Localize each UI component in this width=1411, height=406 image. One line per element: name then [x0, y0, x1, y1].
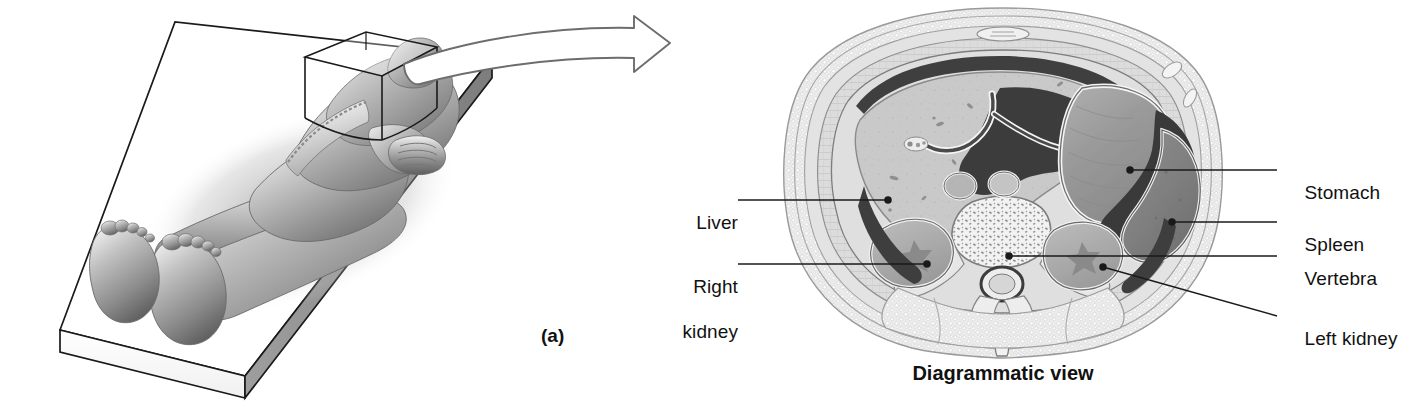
label-left-kidney: Left kidney [1283, 306, 1398, 373]
figure-root: Liver Right kidney Stomach Spleen Verteb… [0, 0, 1411, 406]
leader-dot-spleen [1169, 219, 1175, 225]
label-right-kidney: Right kidney [583, 254, 738, 366]
label-right-kidney-line2: kidney [682, 321, 738, 342]
label-vertebra-text: Vertebra [1305, 268, 1378, 289]
panel-letter-a: (a) [541, 325, 564, 347]
label-liver: Liver [583, 190, 738, 257]
label-left-kidney-text: Left kidney [1305, 328, 1398, 349]
leader-dot-left-kidney [1100, 264, 1106, 270]
figure-caption: Diagrammatic view [843, 362, 1163, 385]
leader-dot-liver [885, 197, 891, 203]
label-stomach-text: Stomach [1305, 182, 1381, 203]
label-right-kidney-line1: Right [693, 276, 738, 297]
label-liver-text: Liver [696, 212, 738, 233]
leader-dot-stomach [1127, 167, 1133, 173]
leader-dot-vertebra [1006, 253, 1012, 259]
leader-left-kidney [1103, 267, 1277, 316]
label-vertebra: Vertebra [1283, 246, 1377, 313]
leader-dot-right-kidney [924, 261, 930, 267]
